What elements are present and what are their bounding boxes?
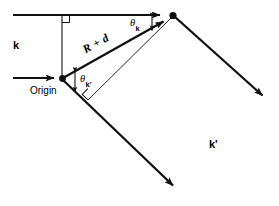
scatterer-vertex-dot <box>169 12 176 19</box>
theta-k-subscript: k <box>135 24 139 33</box>
diagram-canvas: k k' Origin R + d θk θk' <box>0 0 279 206</box>
label-theta-k: θk <box>130 18 139 31</box>
r-plus-d-vector <box>63 22 164 79</box>
right-angle-upper-icon <box>62 15 70 23</box>
label-k-incident: k <box>13 40 19 51</box>
kprime-from-origin-vector <box>63 80 173 186</box>
kprime-from-scatterer-vector <box>175 17 263 96</box>
theta-k-prime-subscript: k' <box>85 80 91 89</box>
origin-vertex-dot <box>59 75 66 82</box>
label-k-prime-scattered: k' <box>209 139 218 150</box>
label-origin: Origin <box>30 86 57 96</box>
right-angle-lower-icon <box>82 89 93 100</box>
label-theta-k-prime: θk' <box>80 74 91 87</box>
